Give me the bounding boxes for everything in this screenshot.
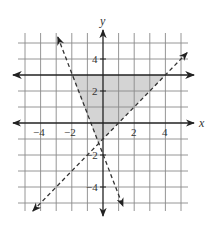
x-tick-label: 4 — [162, 126, 168, 138]
y-tick-label: 2 — [92, 85, 98, 97]
y-tick-label: 4 — [92, 53, 98, 65]
y-tick-label: −4 — [86, 181, 98, 193]
y-tick-label: −2 — [86, 149, 98, 161]
y-axis-label: y — [99, 14, 106, 28]
coordinate-graph: y x −4 −2 2 4 4 2 −2 −4 — [0, 0, 217, 230]
x-tick-label: 2 — [131, 126, 137, 138]
x-axis-label: x — [198, 116, 205, 130]
x-tick-label: −2 — [64, 126, 76, 138]
x-tick-label: −4 — [33, 126, 45, 138]
